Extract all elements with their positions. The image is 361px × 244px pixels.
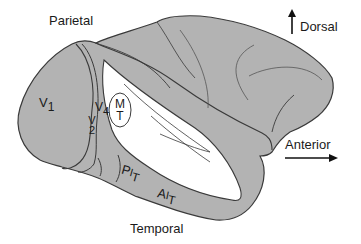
parietal-label: Parietal: [49, 14, 93, 27]
area-v1-sub: 1: [48, 100, 55, 114]
area-v2-sub: 2: [88, 125, 96, 135]
temporal-label: Temporal: [130, 222, 183, 235]
area-mt-label: M T: [114, 98, 126, 122]
area-mt-bottom: T: [114, 110, 126, 122]
area-v4-sub: 4: [103, 105, 109, 117]
area-v1-label: V1: [39, 96, 54, 113]
area-v4-main: V: [95, 100, 103, 114]
area-v4-label: V4: [95, 101, 109, 117]
anterior-label: Anterior: [285, 138, 331, 151]
dorsal-arrow-icon: [288, 9, 296, 17]
anterior-arrow-icon: [329, 154, 338, 162]
dorsal-label: Dorsal: [300, 20, 338, 33]
area-v1-main: V: [39, 95, 48, 110]
area-v2-label: V 2: [88, 115, 96, 135]
area-ait-label: AIT: [155, 186, 177, 207]
brain-diagram: [0, 0, 361, 244]
